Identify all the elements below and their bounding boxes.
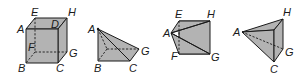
label-b: B: [94, 62, 101, 74]
label-c: C: [129, 62, 137, 74]
label-e: E: [31, 6, 39, 18]
label-a: A: [16, 23, 24, 35]
label-a: A: [87, 23, 95, 35]
label-h: H: [283, 6, 291, 18]
figure-tetrahedron-acgh: H A G C: [232, 6, 294, 75]
label-g: G: [69, 47, 78, 59]
label-a: A: [232, 26, 240, 38]
figure-pyramid-abcg: A G B C: [87, 23, 150, 74]
label-a: A: [162, 27, 170, 39]
label-h: H: [68, 6, 76, 18]
label-d: D: [51, 18, 59, 30]
label-b: B: [18, 62, 25, 74]
label-e: E: [175, 8, 183, 20]
label-g: G: [285, 46, 294, 58]
label-g: G: [211, 51, 220, 63]
label-c: C: [270, 63, 278, 75]
label-c: C: [56, 62, 64, 74]
tetra-front-face: [242, 30, 274, 62]
figure-cube: E H A D F G B C: [16, 6, 78, 74]
pyramid2-vertex-a: [97, 28, 99, 30]
label-g: G: [141, 45, 150, 57]
geometry-figures: E H A D F G B C A G B C E H A F G: [0, 0, 304, 78]
label-h: H: [207, 8, 215, 20]
figure-pyramid-aefgh: E H A F G: [162, 8, 220, 63]
